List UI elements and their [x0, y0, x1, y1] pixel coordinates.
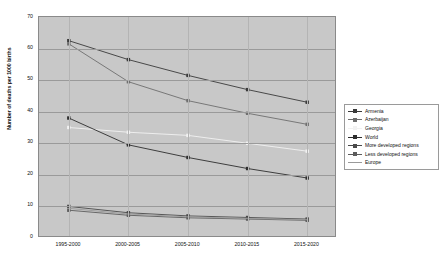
y-tick-label: 0 [0, 234, 33, 239]
y-axis-title: Number of deaths per 1000 births [7, 41, 12, 137]
vgridline-cat-1 [69, 17, 70, 236]
gridline-40 [39, 112, 335, 113]
x-tick-label: 2015-2020 [276, 242, 336, 247]
vgridline-cat-2 [128, 17, 129, 236]
y-tick-label: 60 [0, 45, 33, 50]
legend-label: Georgia [365, 126, 383, 131]
x-tick-label: 2005-2010 [157, 242, 217, 247]
legend-item-georgia[interactable]: Georgia [347, 124, 436, 133]
legend-item-more-developed-regions[interactable]: More developed regions [347, 141, 436, 150]
chart-root: Number of deaths per 1000 births 70 60 5… [0, 0, 442, 259]
legend-label: Europe [365, 160, 381, 165]
legend-swatch-icon [348, 116, 362, 123]
legend-label: More developed regions [365, 143, 419, 148]
legend-swatch-icon [348, 142, 362, 149]
legend-item-world[interactable]: World [347, 133, 436, 142]
vgridline-cat-5 [307, 17, 308, 236]
x-tick-label: 2010-2015 [217, 242, 277, 247]
x-tick-label: 2000-2005 [98, 242, 158, 247]
legend-label: Armenia [365, 109, 384, 114]
legend-swatch-icon [348, 125, 362, 132]
legend-swatch-icon [348, 108, 362, 115]
gridline-10 [39, 206, 335, 207]
y-tick-label: 10 [0, 202, 33, 207]
gridline-60 [39, 49, 335, 50]
legend-label: Less developed regions [365, 152, 418, 157]
gridline-50 [39, 80, 335, 81]
legend: Armenia Azerbaijan Georgia World More de… [344, 104, 439, 170]
y-tick-label: 70 [0, 14, 33, 19]
y-tick-label: 30 [0, 139, 33, 144]
legend-item-less-developed-regions[interactable]: Less developed regions [347, 150, 436, 159]
legend-label: World [365, 135, 378, 140]
legend-swatch-icon [348, 151, 362, 158]
x-tick-label: 1995-2000 [38, 242, 98, 247]
legend-swatch-icon [348, 134, 362, 141]
vgridline-cat-4 [248, 17, 249, 236]
legend-swatch-icon [348, 159, 362, 166]
legend-item-europe[interactable]: Europe [347, 159, 436, 168]
plot-area [38, 16, 336, 237]
legend-item-azerbaijan[interactable]: Azerbaijan [347, 116, 436, 125]
gridline-20 [39, 175, 335, 176]
y-tick-label: 20 [0, 171, 33, 176]
y-tick-label: 40 [0, 108, 33, 113]
legend-item-armenia[interactable]: Armenia [347, 107, 436, 116]
y-tick-label: 50 [0, 76, 33, 81]
vgridline-cat-3 [188, 17, 189, 236]
legend-label: Azerbaijan [365, 117, 389, 122]
gridline-30 [39, 143, 335, 144]
